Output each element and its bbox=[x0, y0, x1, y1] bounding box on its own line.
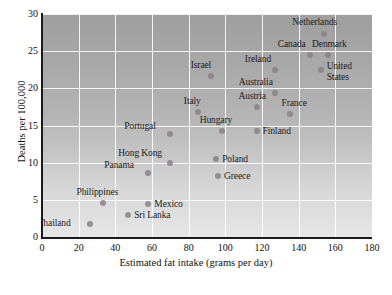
data-point bbox=[208, 73, 214, 79]
point-label: Poland bbox=[222, 154, 248, 164]
y-tick-label: 5 bbox=[4, 195, 38, 205]
point-label: Finland bbox=[263, 126, 291, 136]
point-label: Austria bbox=[239, 91, 266, 101]
data-point bbox=[87, 221, 93, 227]
point-label: France bbox=[282, 98, 307, 108]
gridline-horizontal bbox=[42, 200, 372, 201]
data-point bbox=[254, 128, 260, 134]
data-point bbox=[287, 111, 293, 117]
x-tick-label: 100 bbox=[210, 242, 240, 253]
point-label: Denmark bbox=[312, 39, 347, 49]
plot-area: ThailandPhilippinesSri LankaMexicoPanama… bbox=[42, 14, 372, 237]
scatter-plot-figure: ThailandPhilippinesSri LankaMexicoPanama… bbox=[0, 0, 392, 295]
data-point bbox=[213, 156, 219, 162]
x-tick-label: 40 bbox=[100, 242, 130, 253]
data-point bbox=[272, 90, 278, 96]
data-point bbox=[325, 52, 331, 58]
data-point bbox=[215, 173, 221, 179]
point-label: Italy bbox=[184, 96, 201, 106]
point-label: Hong Kong bbox=[118, 148, 162, 158]
point-label: Thailand bbox=[42, 218, 71, 228]
point-label: Netherlands bbox=[292, 17, 337, 27]
point-label: Sri Lanka bbox=[134, 210, 170, 220]
x-tick-label: 60 bbox=[137, 242, 167, 253]
gridline-horizontal bbox=[42, 163, 372, 164]
x-tick-label: 0 bbox=[27, 242, 57, 253]
point-label: Mexico bbox=[154, 199, 182, 209]
gridline-horizontal bbox=[42, 51, 372, 52]
x-tick-label: 140 bbox=[284, 242, 314, 253]
gridline-horizontal bbox=[42, 88, 372, 89]
point-label: Greece bbox=[224, 171, 250, 181]
data-point bbox=[100, 200, 106, 206]
data-point bbox=[167, 160, 173, 166]
point-label: Portugal bbox=[124, 121, 155, 131]
gridline-horizontal bbox=[42, 14, 372, 15]
x-tick-label: 120 bbox=[247, 242, 277, 253]
data-point bbox=[254, 104, 260, 110]
data-point bbox=[321, 31, 327, 37]
y-tick-label: 0 bbox=[4, 232, 38, 242]
point-label: Australia bbox=[239, 77, 273, 87]
x-axis-label: Estimated fat intake (grams per day) bbox=[0, 257, 392, 268]
point-label: Philippines bbox=[77, 187, 119, 197]
data-point bbox=[318, 67, 324, 73]
point-label: Israel bbox=[191, 60, 212, 70]
data-point bbox=[145, 201, 151, 207]
data-point bbox=[167, 131, 173, 137]
x-tick-label: 20 bbox=[64, 242, 94, 253]
point-label: Canada bbox=[278, 39, 306, 49]
point-label: UnitedStates bbox=[327, 61, 352, 82]
y-axis-label: Deaths per 100,000 bbox=[16, 52, 27, 192]
gridline-horizontal bbox=[42, 126, 372, 127]
data-point bbox=[272, 67, 278, 73]
point-label: Hungary bbox=[200, 115, 233, 125]
data-point bbox=[125, 212, 131, 218]
x-tick-label: 80 bbox=[174, 242, 204, 253]
y-tick-label: 30 bbox=[4, 9, 38, 19]
point-label: Panama bbox=[104, 160, 133, 170]
data-point bbox=[145, 170, 151, 176]
x-tick-label: 160 bbox=[320, 242, 350, 253]
data-point bbox=[195, 109, 201, 115]
x-tick-label: 180 bbox=[357, 242, 387, 253]
point-label: Ireland bbox=[245, 54, 271, 64]
x-axis-line bbox=[41, 237, 372, 239]
data-point bbox=[307, 52, 313, 58]
data-point bbox=[219, 128, 225, 134]
y-axis-line bbox=[41, 13, 43, 238]
